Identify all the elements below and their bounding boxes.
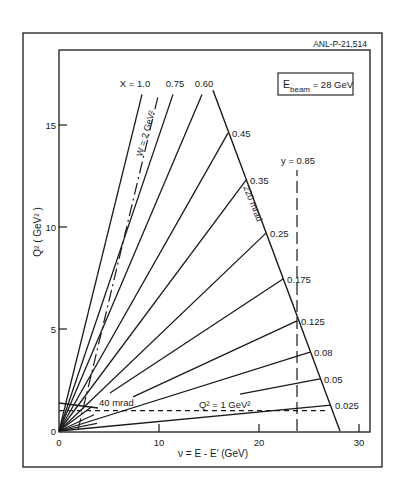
kinematics-figure: ANL-P-21,514 0102030051015 X = 1.00.750.… bbox=[0, 0, 404, 491]
figure-id: ANL-P-21,514 bbox=[313, 39, 367, 49]
beam-energy-box: Ebeam = 28 GeV bbox=[278, 73, 354, 95]
x-line-0.125 bbox=[133, 321, 297, 397]
x-line-label: 0.45 bbox=[232, 128, 251, 139]
x-tick-label: 0 bbox=[56, 437, 61, 448]
x-tick-label: 20 bbox=[254, 437, 265, 448]
x-line-label: 0.25 bbox=[270, 228, 289, 239]
x-tick-label: 10 bbox=[154, 437, 165, 448]
x-axis-label: ν = E - E′ (GeV) bbox=[178, 448, 248, 459]
y-tick-label: 10 bbox=[45, 222, 56, 233]
x-line-label: 0.05 bbox=[324, 374, 343, 385]
x-line-label: 0.75 bbox=[166, 78, 185, 89]
x-line-label: 0.025 bbox=[335, 400, 359, 411]
cut-40-mrad-label: 40 mrad bbox=[99, 397, 134, 408]
beam-energy-subscript: beam bbox=[290, 85, 310, 94]
x-line-0.60 bbox=[59, 94, 202, 431]
y-tick-label: 5 bbox=[51, 324, 56, 335]
y-axis-label: Q² ( GeV² ) bbox=[32, 207, 43, 256]
x-line-label: 0.08 bbox=[314, 347, 333, 358]
x-line-label: 0.35 bbox=[250, 175, 269, 186]
x-line-0.75 bbox=[59, 94, 173, 431]
cut-q2-label: Q² = 1 GeV² bbox=[199, 399, 250, 410]
cut-y-label: y = 0.85 bbox=[281, 155, 315, 166]
x-tick-label: 30 bbox=[354, 437, 365, 448]
beam-energy-value: = 28 GeV bbox=[310, 79, 354, 90]
y-tick-label: 0 bbox=[51, 426, 56, 437]
x-line-label: 0.125 bbox=[301, 316, 325, 327]
x-line-label: 0.60 bbox=[195, 78, 214, 89]
x-line-label: 0.175 bbox=[287, 274, 311, 285]
y-tick-label: 15 bbox=[45, 120, 56, 131]
x-line-0.35 bbox=[59, 180, 246, 431]
x-line-label: X = 1.0 bbox=[120, 78, 150, 89]
beam-energy-symbol: E bbox=[283, 78, 290, 90]
x-lines bbox=[59, 94, 331, 431]
cut-220-mrad bbox=[213, 90, 340, 431]
cut-220-mrad-label: 220 mrad bbox=[241, 184, 265, 223]
x-line-0.05 bbox=[240, 379, 320, 394]
